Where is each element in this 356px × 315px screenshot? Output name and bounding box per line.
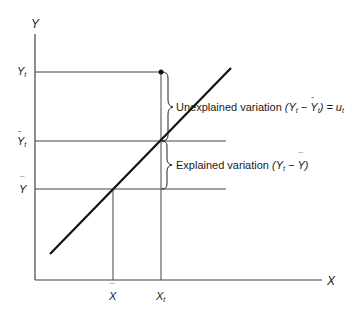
x-axis-label: X [327,275,335,287]
y-tick-yt: Yt [17,66,26,78]
unexplained-variation-label: Unexplained variation (Yt − Yt) = ut [176,102,344,114]
x-tick-xbar: X [109,291,116,302]
y-tick-ybar: Y [19,184,26,195]
y-axis-label: Y [31,18,39,30]
explained-brace [162,141,172,189]
x-tick-xt: Xt [156,291,165,303]
y-tick-yhat-t: Yt [17,136,26,148]
explained-variation-label: Explained variation (Yt − Y) [176,160,309,172]
